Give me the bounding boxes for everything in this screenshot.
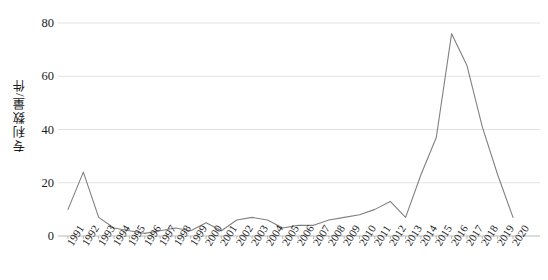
patent-count-line-chart: 专利数量/件 020406080 19911992199319941995199… bbox=[0, 0, 548, 280]
gridlines bbox=[58, 23, 540, 236]
data-series-line bbox=[68, 34, 513, 234]
